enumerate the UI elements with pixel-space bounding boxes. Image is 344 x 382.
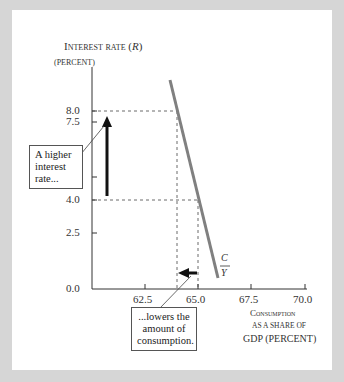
up-arrowhead-icon — [102, 116, 112, 127]
x-tick-label: 70.0 — [293, 293, 312, 305]
curve-label-numerator: C — [221, 252, 228, 263]
curve-label-denominator: Y — [221, 267, 227, 278]
left-arrowhead-icon — [178, 268, 189, 278]
x-tick-label: 65.0 — [186, 293, 205, 305]
x-tick-label: 62.5 — [133, 293, 152, 305]
x-axis-title-line2: AS A SHARE OF — [252, 321, 306, 330]
y-tick-label: 2.5 — [66, 226, 80, 238]
y-tick-label: 7.5 — [66, 115, 80, 127]
y-tick-label: 4.0 — [66, 193, 80, 205]
x-axis-title-line3: GDP (PERCENT) — [243, 333, 316, 344]
y-tick-label: 0.0 — [66, 282, 80, 294]
x-axis-title-line1: Consumption — [250, 308, 295, 318]
y-axis-unit: (PERCENT) — [54, 58, 95, 67]
y-ticks — [92, 111, 97, 233]
annotation-higher-rate: A higher interest rate... — [29, 145, 83, 189]
x-tick-label: 67.5 — [239, 293, 258, 305]
x-ticks — [145, 284, 305, 289]
annotation-lowers-consumption: ...lowers the amount of consumption. — [131, 307, 197, 351]
y-axis-title: Interest rate (R) — [64, 40, 142, 52]
